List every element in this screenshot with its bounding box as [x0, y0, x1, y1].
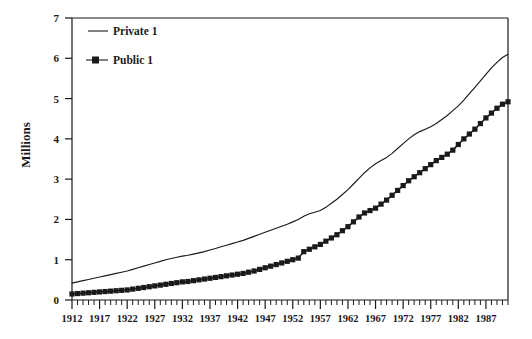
y-tick-label: 2 — [54, 213, 60, 225]
data-point-marker — [263, 265, 268, 270]
data-point-marker — [450, 148, 455, 153]
data-point-marker — [274, 262, 279, 267]
data-point-marker — [174, 280, 179, 285]
x-tick-label: 1937 — [199, 313, 220, 324]
data-point-marker — [229, 272, 234, 277]
data-point-marker — [505, 99, 510, 104]
data-point-marker — [428, 162, 433, 167]
data-point-marker — [152, 283, 157, 288]
data-point-marker — [318, 242, 323, 247]
x-tick-label: 1982 — [448, 313, 469, 324]
data-point-marker — [384, 197, 389, 202]
data-point-marker — [301, 249, 306, 254]
data-point-marker — [163, 282, 168, 287]
data-point-marker — [373, 206, 378, 211]
data-point-marker — [130, 287, 135, 292]
data-point-marker — [257, 267, 262, 272]
y-tick-label: 3 — [54, 173, 60, 185]
data-point-marker — [147, 284, 152, 289]
data-point-marker — [472, 127, 477, 132]
data-point-marker — [456, 142, 461, 147]
data-point-marker — [80, 291, 85, 296]
data-point-marker — [218, 274, 223, 279]
data-point-marker — [235, 272, 240, 277]
y-tick-label: 0 — [54, 294, 60, 306]
x-tick-label: 1927 — [144, 313, 165, 324]
y-tick-label: 7 — [54, 12, 60, 24]
x-tick-label: 1962 — [337, 313, 358, 324]
data-point-marker — [323, 239, 328, 244]
data-point-marker — [406, 178, 411, 183]
data-point-marker — [252, 268, 257, 273]
x-tick-label: 1977 — [420, 313, 441, 324]
data-point-marker — [296, 256, 301, 261]
data-point-marker — [285, 259, 290, 264]
x-tick-label: 1987 — [475, 313, 496, 324]
data-point-marker — [307, 247, 312, 252]
legend-label-public: Public 1 — [113, 54, 153, 66]
data-point-marker — [494, 106, 499, 111]
data-point-marker — [290, 257, 295, 262]
legend-swatch-public-marker — [92, 57, 99, 64]
data-point-marker — [329, 235, 334, 240]
x-tick-label: 1922 — [117, 313, 138, 324]
data-point-marker — [340, 228, 345, 233]
y-tick-label: 6 — [54, 52, 60, 64]
data-point-marker — [312, 244, 317, 249]
data-point-marker — [191, 278, 196, 283]
y-tick-label: 5 — [54, 93, 60, 105]
data-point-marker — [103, 289, 108, 294]
data-point-marker — [114, 288, 119, 293]
data-point-marker — [169, 281, 174, 286]
x-tick-label: 1917 — [89, 313, 110, 324]
chart-background — [0, 0, 532, 339]
data-point-marker — [417, 170, 422, 175]
data-point-marker — [185, 279, 190, 284]
data-point-marker — [69, 291, 74, 296]
x-tick-label: 1952 — [282, 313, 303, 324]
data-point-marker — [489, 110, 494, 115]
y-axis-label: Millions — [18, 122, 33, 168]
data-point-marker — [86, 290, 91, 295]
data-point-marker — [125, 287, 130, 292]
data-point-marker — [108, 289, 113, 294]
data-point-marker — [434, 158, 439, 163]
x-tick-label: 1932 — [172, 313, 193, 324]
legend-label-private: Private 1 — [113, 25, 158, 37]
data-point-marker — [367, 208, 372, 213]
data-point-marker — [412, 174, 417, 179]
data-point-marker — [180, 279, 185, 284]
data-point-marker — [213, 275, 218, 280]
data-point-marker — [378, 202, 383, 207]
chart-canvas: 01234567 1912191719221927193219371942194… — [0, 0, 532, 339]
data-point-marker — [97, 289, 102, 294]
x-tick-label: 1957 — [310, 313, 331, 324]
data-point-marker — [119, 288, 124, 293]
data-point-marker — [136, 286, 141, 291]
data-point-marker — [207, 276, 212, 281]
data-point-marker — [390, 193, 395, 198]
data-point-marker — [467, 131, 472, 136]
x-tick-label: 1967 — [365, 313, 386, 324]
x-tick-label: 1972 — [393, 313, 414, 324]
y-tick-label: 1 — [54, 254, 60, 266]
data-point-marker — [240, 271, 245, 276]
data-point-marker — [461, 136, 466, 141]
data-point-marker — [158, 282, 163, 287]
data-point-marker — [141, 285, 146, 290]
x-tick-label: 1912 — [62, 313, 83, 324]
data-point-marker — [196, 277, 201, 282]
data-point-marker — [345, 224, 350, 229]
data-point-marker — [423, 166, 428, 171]
data-point-marker — [483, 115, 488, 120]
data-point-marker — [395, 188, 400, 193]
y-tick-label: 4 — [54, 133, 60, 145]
data-point-marker — [268, 264, 273, 269]
data-point-marker — [478, 121, 483, 126]
data-point-marker — [75, 291, 80, 296]
data-point-marker — [279, 260, 284, 265]
data-point-marker — [356, 214, 361, 219]
x-tick-label: 1942 — [227, 313, 248, 324]
data-point-marker — [334, 232, 339, 237]
line-chart: 01234567 1912191719221927193219371942194… — [0, 0, 532, 339]
